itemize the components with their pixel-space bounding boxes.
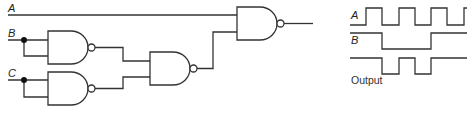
junction-dot-b xyxy=(21,37,27,43)
wire-gate1-to-gate3 xyxy=(95,48,150,62)
input-label-b: B xyxy=(8,27,15,39)
junction-dot-c xyxy=(21,77,27,83)
nand-gate-2 xyxy=(48,72,95,105)
input-label-c: C xyxy=(8,67,16,79)
inverter-bubble-icon xyxy=(88,85,95,92)
timing-label-output: Output xyxy=(351,74,383,86)
circuit-schematic: A B C xyxy=(7,2,313,105)
wire-c-branch xyxy=(24,80,48,97)
wire-b-branch xyxy=(24,40,48,56)
waveform-b xyxy=(350,33,467,49)
nand-gate-3 xyxy=(150,52,197,85)
waveform-output xyxy=(350,58,467,74)
waveform-a xyxy=(350,8,467,25)
logic-circuit-figure: A B C xyxy=(0,0,467,120)
inverter-bubble-icon xyxy=(277,20,284,27)
inverter-bubble-icon xyxy=(88,44,95,51)
timing-diagram: A B Output xyxy=(350,8,467,86)
nand-gate-4 xyxy=(237,7,284,40)
input-label-a: A xyxy=(7,2,15,14)
nand-gate-1 xyxy=(48,31,95,64)
timing-label-a: A xyxy=(350,9,358,21)
inverter-bubble-icon xyxy=(190,65,197,72)
wire-gate3-to-gate4 xyxy=(197,32,237,69)
timing-label-b: B xyxy=(351,34,358,46)
wire-gate2-to-gate3 xyxy=(95,77,150,89)
